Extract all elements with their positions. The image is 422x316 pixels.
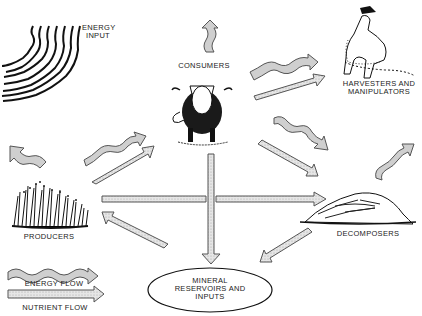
producers-grass: [12, 184, 88, 228]
energy-arrow-producers-out: [10, 146, 46, 168]
energy-arrow-consumers-harvesters: [250, 54, 318, 80]
legend-nutrient-label: NUTRIENT FLOW: [12, 304, 98, 312]
diagram-canvas: [0, 0, 422, 316]
consumers-label: CONSUMERS: [174, 62, 234, 70]
cow-illustration: [172, 86, 232, 145]
energy-input-label: ENERGY INPUT: [82, 24, 115, 40]
decomposers-label: DECOMPOSERS: [328, 230, 408, 238]
energy-arrow-consumers-out: [202, 20, 218, 52]
nutrient-arrow-consumers-decomposers: [258, 140, 318, 176]
harvester-illustration: [344, 6, 415, 78]
nutrient-arrow-producers-decomposers-right: [216, 192, 326, 206]
nutrient-arrow-decomposers-minerals: [260, 228, 312, 262]
nutrient-arrow-consumers-minerals: [202, 154, 220, 264]
energy-input-rays: [2, 26, 80, 101]
nutrient-arrow-minerals-producers: [102, 212, 168, 248]
legend-nutrient-arrow: [8, 286, 104, 302]
energy-input-label-line2: INPUT: [82, 32, 115, 40]
harvesters-label-line2: MANIPULATORS: [336, 88, 422, 96]
producers-label: PRODUCERS: [14, 233, 84, 241]
harvesters-label: HARVESTERS AND MANIPULATORS: [336, 80, 422, 96]
nutrient-arrow-producers-decomposers-left: [102, 196, 206, 202]
minerals-label-line3: INPUTS: [160, 293, 260, 301]
energy-arrow-consumers-decomposers: [274, 117, 328, 150]
legend-energy-label: ENERGY FLOW: [14, 280, 94, 288]
minerals-label: MINERAL RESERVOIRS AND INPUTS: [160, 277, 260, 301]
nutrient-arrow-consumers-harvesters: [254, 74, 325, 100]
energy-arrow-decomposers-out: [376, 144, 414, 180]
